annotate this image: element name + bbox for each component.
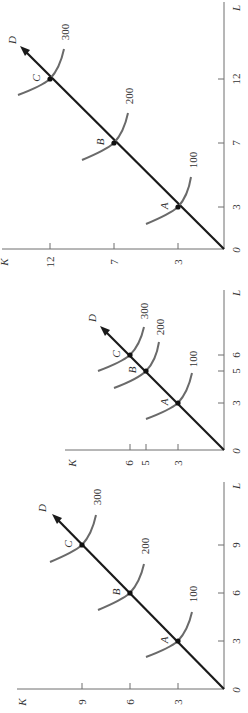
isoquant-200 (82, 113, 128, 160)
l-tick: 7 (230, 140, 242, 146)
point-c (47, 76, 52, 81)
panel-top: L 0 K 3 7 12 3 7 12 D A B C 100 200 300 (0, 2, 242, 268)
isoquant-label: 100 (187, 350, 199, 367)
k-tick: 12 (44, 257, 56, 268)
isoquant-label: 200 (154, 318, 166, 335)
k-tick: 6 (124, 699, 136, 705)
k-tick: 3 (172, 259, 184, 265)
l-tick: 3 (230, 204, 242, 210)
ray-label: D (6, 36, 18, 45)
point-a (175, 638, 180, 643)
point-label: C (110, 350, 122, 358)
origin-label: 0 (230, 448, 242, 454)
l-tick: 5 (230, 368, 242, 374)
expansion-ray (104, 330, 224, 450)
point-label: A (158, 398, 170, 406)
l-tick: 6 (230, 352, 242, 358)
point-label: B (94, 138, 106, 145)
l-tick: 12 (230, 74, 242, 85)
isoquant-label: 200 (139, 537, 151, 554)
expansion-ray (24, 50, 224, 249)
point-b (143, 368, 148, 373)
point-a (175, 400, 180, 405)
isoquant-label: 300 (59, 23, 71, 40)
point-a (175, 204, 180, 209)
k-axis-label: K (66, 459, 78, 468)
l-tick: 6 (230, 590, 242, 596)
point-label: B (110, 588, 122, 595)
ray-label: D (86, 314, 98, 323)
point-label: A (158, 636, 170, 644)
point-label: C (30, 74, 42, 82)
point-c (79, 542, 84, 547)
panel-middle: L 0 K 3 5 6 3 5 6 D A B C 100 200 300 (65, 290, 242, 468)
isoquant-300 (18, 49, 64, 95)
point-label: B (126, 366, 138, 373)
point-label: A (158, 202, 170, 210)
k-tick: 7 (108, 259, 120, 265)
point-c (127, 352, 132, 357)
k-tick: 3 (172, 460, 184, 466)
k-tick: 5 (139, 460, 151, 466)
isoquant-label: 300 (138, 302, 150, 319)
l-tick: 9 (230, 542, 242, 548)
k-tick: 9 (76, 699, 88, 705)
point-label: C (62, 540, 74, 548)
l-axis-label: L (230, 290, 242, 297)
l-axis-label: L (230, 5, 242, 12)
point-b (127, 590, 132, 595)
isoquant-label: 200 (123, 87, 135, 104)
returns-to-scale-figure: L 0 K 3 7 12 3 7 12 D A B C 100 200 300 … (0, 0, 248, 713)
l-tick: 3 (230, 638, 242, 644)
k-axis-label: K (16, 698, 28, 707)
origin-label: 0 (230, 687, 242, 693)
ray-label: D (36, 504, 48, 513)
isoquant-label: 300 (91, 488, 103, 505)
isoquant-label: 100 (187, 585, 199, 602)
point-b (111, 140, 116, 145)
isoquant-label: 100 (187, 151, 199, 168)
k-tick: 3 (172, 699, 184, 705)
origin-label: 0 (230, 247, 242, 253)
k-tick: 6 (123, 460, 135, 466)
l-tick: 3 (230, 400, 242, 406)
isoquant-100 (146, 177, 191, 224)
panel-bottom: L 0 K 3 6 9 3 6 9 D A B C 100 200 300 (16, 482, 242, 707)
k-axis-label: K (0, 258, 10, 267)
l-axis-label: L (230, 483, 242, 490)
isoquant-200 (98, 564, 144, 610)
isoquant-200 (114, 342, 159, 388)
